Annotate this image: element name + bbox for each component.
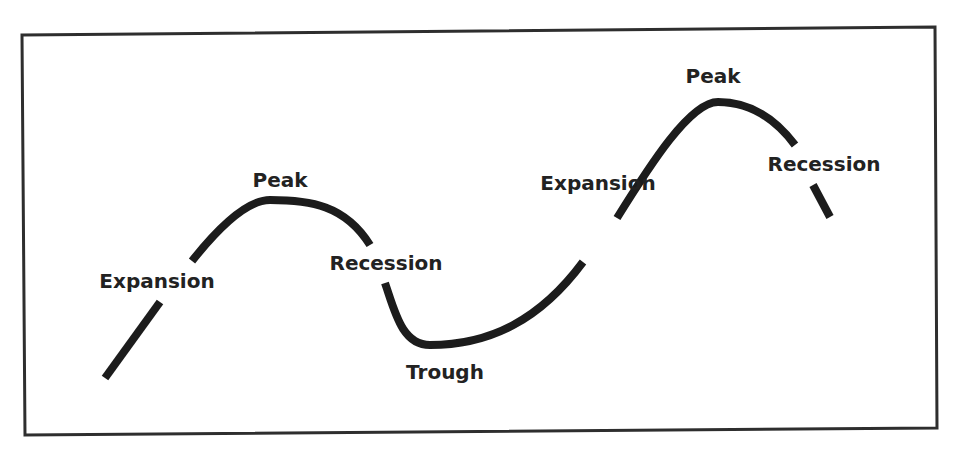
label-peak-1: Peak — [252, 168, 308, 192]
curve-segment — [105, 302, 160, 378]
label-recession-2: Recession — [767, 152, 880, 176]
business-cycle-diagram: Expansion Peak Recession Trough Expansio… — [0, 0, 953, 450]
label-expansion-1: Expansion — [99, 269, 214, 293]
label-expansion-2: Expansion — [540, 171, 655, 195]
economic-cycle-curve — [105, 102, 830, 378]
label-recession-1: Recession — [329, 251, 442, 275]
label-trough: Trough — [406, 360, 484, 384]
diagram-canvas: Expansion Peak Recession Trough Expansio… — [0, 0, 953, 450]
label-peak-2: Peak — [685, 64, 741, 88]
curve-segment — [813, 185, 830, 217]
